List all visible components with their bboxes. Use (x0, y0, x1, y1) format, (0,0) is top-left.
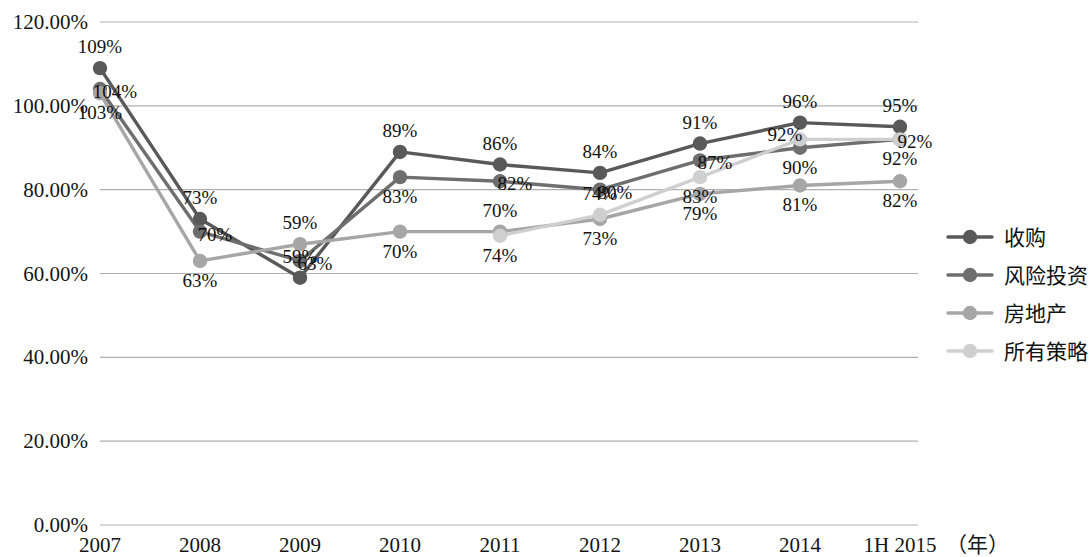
data-point-label: 59% (283, 212, 318, 233)
chart-canvas: 0.00%20.00%40.00%60.00%80.00%100.00%120.… (0, 0, 1089, 557)
data-point-label: 63% (183, 270, 218, 291)
data-point-label: 86% (483, 133, 518, 154)
data-point-label: 84% (583, 141, 618, 162)
legend-item-label: 收购 (1004, 226, 1046, 249)
legend-item[interactable]: 所有策略 (948, 340, 1088, 363)
x-axis-tick-label: 1H 2015 (864, 533, 937, 557)
legend-item[interactable]: 房地产 (948, 302, 1067, 325)
series-point (193, 254, 207, 268)
x-axis-tick-label: 2014 (779, 533, 822, 557)
series-point (393, 224, 407, 238)
data-point-label: 81% (783, 194, 818, 215)
data-point-label: 70% (383, 241, 418, 262)
x-axis-tick-label: 2013 (679, 533, 721, 557)
data-point-label: 96% (783, 91, 818, 112)
series-point (93, 61, 107, 75)
data-point-label: 109% (78, 36, 123, 57)
data-point-label: 83% (683, 186, 718, 207)
series-point (493, 229, 507, 243)
y-axis-tick-label: 100.00% (13, 94, 88, 118)
x-axis-tick-label: 2012 (579, 533, 621, 557)
y-axis-tick-label: 80.00% (23, 178, 88, 202)
data-point-label: 63% (298, 253, 333, 274)
legend-marker-swatch (963, 344, 977, 358)
data-point-label: 90% (783, 157, 818, 178)
data-point-label: 89% (383, 120, 418, 141)
series-point (393, 145, 407, 159)
series-point (693, 136, 707, 150)
legend-item[interactable]: 风险投资 (948, 264, 1088, 287)
data-point-label: 103% (78, 102, 123, 123)
series-point (493, 157, 507, 171)
legend-item-label: 所有策略 (1004, 340, 1088, 363)
data-point-label: 87% (698, 152, 733, 173)
legend-marker-swatch (963, 268, 977, 282)
y-axis-tick-label: 60.00% (23, 262, 88, 286)
x-axis-tick-label: 2009 (279, 533, 321, 557)
x-axis-tick-label: 2007 (79, 533, 121, 557)
data-point-label: 104% (93, 81, 138, 102)
data-point-label: 74% (483, 245, 518, 266)
data-point-label: 73% (183, 187, 218, 208)
x-axis-tick-labels: 200720082009201020112012201320141H 2015 (79, 533, 936, 557)
data-point-label: 92% (768, 124, 803, 145)
data-point-label: 82% (883, 190, 918, 211)
y-axis-tick-labels: 0.00%20.00%40.00%60.00%80.00%100.00%120.… (13, 10, 88, 537)
data-point-label: 73% (583, 228, 618, 249)
line-chart: 0.00%20.00%40.00%60.00%80.00%100.00%120.… (0, 0, 1089, 557)
data-point-label: 74% (583, 183, 618, 204)
y-axis-tick-label: 40.00% (23, 345, 88, 369)
series-point (893, 174, 907, 188)
legend-item-label: 房地产 (1004, 302, 1067, 325)
data-point-label: 70% (483, 200, 518, 221)
legend-item-label: 风险投资 (1004, 264, 1088, 287)
y-axis-tick-label: 120.00% (13, 10, 88, 34)
legend-marker-swatch (963, 306, 977, 320)
series-point (593, 166, 607, 180)
data-point-label: 83% (383, 186, 418, 207)
series-point (593, 208, 607, 222)
data-point-label: 91% (683, 112, 718, 133)
legend-item[interactable]: 收购 (948, 226, 1046, 249)
legend: 收购风险投资房地产所有策略 (948, 226, 1088, 363)
x-axis-tick-label: 2011 (479, 533, 520, 557)
x-axis-unit-label: （年） (946, 533, 1009, 557)
series-point (393, 170, 407, 184)
x-axis-tick-label: 2008 (179, 533, 221, 557)
data-point-label: 82% (498, 173, 533, 194)
legend-marker-swatch (963, 230, 977, 244)
x-axis-tick-label: 2010 (379, 533, 421, 557)
data-point-label: 92% (898, 131, 933, 152)
y-axis-tick-label: 20.00% (23, 429, 88, 453)
data-point-label: 95% (883, 95, 918, 116)
series-point (793, 178, 807, 192)
data-point-label: 70% (198, 224, 233, 245)
